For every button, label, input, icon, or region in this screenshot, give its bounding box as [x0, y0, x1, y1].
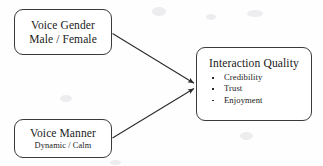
interaction-quality-title: Interaction Quality: [209, 57, 299, 71]
list-item: Enjoyment: [211, 95, 263, 106]
voice-manner-title: Voice Manner: [30, 126, 96, 140]
voice-gender-title: Voice Gender: [31, 18, 95, 32]
node-voice-gender: Voice Gender Male / Female: [14, 9, 112, 55]
voice-manner-levels: Dynamic / Calm: [35, 140, 92, 151]
interaction-quality-list: Credibility Trust Enjoyment: [197, 72, 263, 106]
voice-gender-levels: Male / Female: [29, 32, 97, 46]
node-interaction-quality: Interaction Quality Credibility Trust En…: [196, 47, 312, 121]
edge-gender-to-quality: [113, 34, 195, 84]
list-item: Credibility: [211, 72, 263, 83]
node-voice-manner: Voice Manner Dynamic / Calm: [14, 119, 112, 158]
conceptual-model-diagram: Voice Gender Male / Female Voice Manner …: [0, 0, 323, 166]
edge-manner-to-quality: [113, 89, 195, 139]
list-item: Trust: [211, 83, 263, 94]
